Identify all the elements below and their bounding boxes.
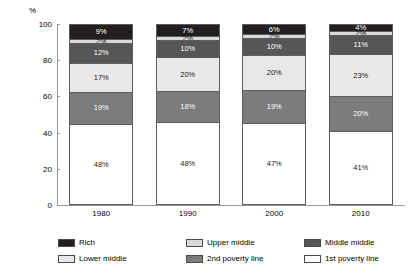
legend-swatch-middle-middle — [304, 239, 321, 247]
x-axis-tick-labels: 1980199020002010 — [58, 209, 404, 225]
y-tick-0: 0 — [26, 201, 52, 210]
x-tick-2010: 2010 — [329, 209, 393, 218]
legend-label-1st-poverty-line: 1st poverty line — [325, 254, 379, 263]
segment-value-label: 48% — [180, 160, 195, 168]
y-tick-mark — [57, 169, 60, 170]
segment-1980-middle-middle[interactable]: 12% — [69, 43, 133, 63]
y-tick-mark — [57, 96, 60, 97]
legend-item-rich[interactable]: Rich — [58, 236, 186, 249]
y-axis-unit-label: % — [29, 6, 36, 15]
segment-2010-2nd-poverty-line[interactable]: 20% — [329, 96, 393, 132]
legend-swatch-rich — [58, 239, 75, 247]
segment-2000-lower-middle[interactable]: 20% — [242, 55, 306, 90]
bar-1980[interactable]: 9%2%12%17%19%48% — [69, 24, 133, 205]
legend-item-lower-middle[interactable]: Lower middle — [58, 252, 186, 265]
legend-item-upper-middle[interactable]: Upper middle — [186, 236, 304, 249]
segment-2010-lower-middle[interactable]: 23% — [329, 54, 393, 95]
segment-value-label: 48% — [94, 161, 109, 169]
legend-swatch-1st-poverty-line — [304, 255, 321, 263]
segment-value-label: 7% — [182, 27, 193, 35]
legend-label-rich: Rich — [79, 238, 95, 247]
segment-1990-lower-middle[interactable]: 20% — [156, 57, 220, 91]
segment-1980-1st-poverty-line[interactable]: 48% — [69, 124, 133, 205]
segment-2010-1st-poverty-line[interactable]: 41% — [329, 131, 393, 204]
bar-1990[interactable]: 7%2%10%20%18%48% — [156, 24, 220, 205]
segment-value-label: 10% — [267, 43, 282, 51]
x-tick-2000: 2000 — [242, 209, 306, 218]
segment-2010-rich[interactable]: 4% — [329, 24, 393, 31]
segment-value-label: 20% — [267, 69, 282, 77]
legend-swatch-lower-middle — [58, 255, 75, 263]
legend-item-2nd-poverty-line[interactable]: 2nd poverty line — [186, 252, 304, 265]
legend-label-upper-middle: Upper middle — [207, 238, 255, 247]
legend-item-1st-poverty-line[interactable]: 1st poverty line — [304, 252, 406, 265]
segment-value-label: 11% — [354, 41, 368, 49]
y-tick-mark — [57, 133, 60, 134]
y-tick-40: 40 — [26, 128, 52, 137]
legend-label-lower-middle: Lower middle — [79, 254, 127, 263]
y-tick-20: 20 — [26, 164, 52, 173]
plot-area: 9%2%12%17%19%48%7%2%10%20%18%48%6%2%10%2… — [58, 24, 404, 205]
legend-label-middle-middle: Middle middle — [325, 238, 374, 247]
legend-swatch-upper-middle — [186, 239, 203, 247]
legend-item-middle-middle[interactable]: Middle middle — [304, 236, 406, 249]
segment-2000-2nd-poverty-line[interactable]: 19% — [242, 90, 306, 123]
segment-1980-lower-middle[interactable]: 17% — [69, 63, 133, 92]
x-axis-line — [57, 205, 405, 206]
segment-value-label: 17% — [94, 74, 109, 82]
stacked-bar-chart: % 100806040200 9%2%12%17%19%48%7%2%10%20… — [0, 0, 412, 271]
segment-value-label: 6% — [269, 26, 280, 34]
segment-1990-middle-middle[interactable]: 10% — [156, 40, 220, 57]
bar-2010[interactable]: 4%2%11%23%20%41% — [329, 24, 393, 205]
y-tick-mark — [57, 60, 60, 61]
segment-2010-middle-middle[interactable]: 11% — [329, 35, 393, 55]
segment-value-label: 20% — [180, 71, 195, 79]
x-tick-1990: 1990 — [156, 209, 220, 218]
segment-value-label: 19% — [267, 103, 282, 111]
chart-legend: Rich Upper middle Middle middle Lower mi… — [58, 236, 406, 268]
segment-value-label: 47% — [267, 160, 282, 168]
y-tick-60: 60 — [26, 92, 52, 101]
y-tick-100: 100 — [26, 20, 52, 29]
legend-swatch-2nd-poverty-line — [186, 255, 203, 263]
segment-2000-rich[interactable]: 6% — [242, 24, 306, 34]
segment-1980-rich[interactable]: 9% — [69, 24, 133, 39]
segment-value-label: 20% — [353, 110, 368, 118]
segment-value-label: 41% — [353, 164, 368, 172]
bar-2000[interactable]: 6%2%10%20%19%47% — [242, 24, 306, 205]
segment-1990-1st-poverty-line[interactable]: 48% — [156, 122, 220, 205]
segment-value-label: 19% — [94, 104, 109, 112]
segment-value-label: 12% — [94, 49, 109, 57]
segment-1990-2nd-poverty-line[interactable]: 18% — [156, 91, 220, 122]
x-tick-1980: 1980 — [69, 209, 133, 218]
y-tick-mark — [57, 205, 60, 206]
segment-2000-middle-middle[interactable]: 10% — [242, 38, 306, 55]
segment-2000-1st-poverty-line[interactable]: 47% — [242, 123, 306, 205]
segment-value-label: 9% — [96, 28, 107, 36]
legend-row-bottom: Lower middle 2nd poverty line 1st povert… — [58, 252, 406, 265]
segment-value-label: 10% — [180, 45, 195, 53]
y-axis-tick-labels: 100806040200 — [22, 24, 52, 205]
segment-value-label: 23% — [353, 72, 368, 80]
y-tick-80: 80 — [26, 56, 52, 65]
segment-1990-rich[interactable]: 7% — [156, 24, 220, 36]
legend-row-top: Rich Upper middle Middle middle — [58, 236, 406, 249]
segment-value-label: 18% — [180, 103, 195, 111]
legend-label-2nd-poverty-line: 2nd poverty line — [207, 254, 263, 263]
y-tick-mark — [57, 24, 60, 25]
segment-1980-2nd-poverty-line[interactable]: 19% — [69, 92, 133, 124]
